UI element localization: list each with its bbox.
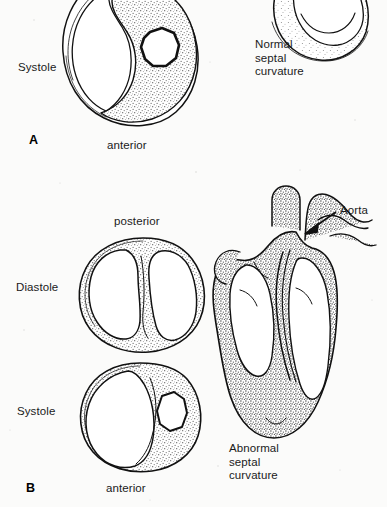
panel-b-letter: B	[26, 481, 35, 495]
panel-a-anterior-label: anterior	[107, 139, 147, 153]
aorta-arrow	[305, 212, 336, 234]
panel-b-anterior-label: anterior	[106, 482, 146, 496]
panel-b-phase-diastole-label: Diastole	[16, 281, 58, 295]
aorta-label: Aorta	[340, 204, 368, 218]
panel-a-phase-systole-label: Systole	[18, 61, 56, 75]
panel-a-caption: Normal septal curvature	[255, 38, 304, 79]
scan-noise-overlay	[0, 0, 387, 507]
panel-b-phase-systole-label: Systole	[17, 405, 55, 419]
panel-b-caption: Abnormal septal curvature	[229, 442, 279, 483]
figure-canvas: Systole A anterior Normal septal curvatu…	[0, 0, 387, 507]
anatomical-illustration	[0, 0, 387, 507]
panel-b-posterior-label: posterior	[114, 215, 160, 229]
panel-a-letter: A	[29, 133, 38, 147]
